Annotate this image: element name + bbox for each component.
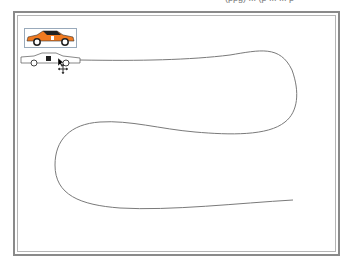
move-cursor-icon bbox=[58, 64, 68, 74]
outline-car-icon bbox=[20, 52, 82, 69]
orange-car-image[interactable] bbox=[24, 28, 77, 48]
orange-car-icon bbox=[25, 29, 76, 47]
outline-car-image[interactable] bbox=[20, 52, 82, 69]
motion-path[interactable] bbox=[55, 51, 297, 209]
